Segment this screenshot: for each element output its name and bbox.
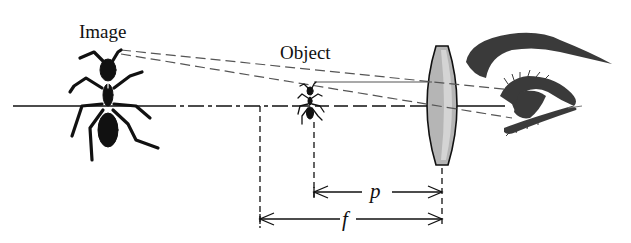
converging-lens	[427, 46, 457, 165]
eye-icon	[466, 33, 612, 134]
reference-lines	[260, 106, 442, 228]
image-ant-icon	[70, 50, 158, 160]
object-ant-icon	[298, 82, 324, 124]
dimension-f	[260, 213, 442, 225]
label-image: Image	[79, 21, 126, 42]
label-object: Object	[280, 42, 331, 63]
label-f: f	[342, 207, 351, 231]
label-p: p	[368, 179, 381, 203]
optics-diagram: p f Image Object	[0, 0, 631, 243]
